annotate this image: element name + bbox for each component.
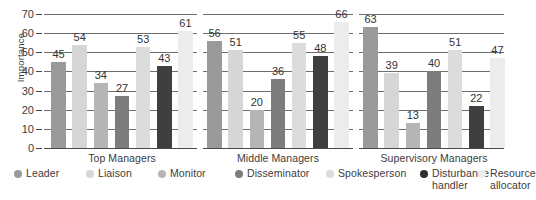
legend-label: Spokesperson: [338, 168, 406, 180]
legend-item[interactable]: Resource allocator: [478, 168, 536, 191]
group-separator: [353, 13, 359, 149]
bar-value-label: 48: [307, 43, 334, 54]
bar-value-label: 63: [357, 14, 384, 25]
bar: [228, 50, 243, 148]
legend-color-dot-icon: [478, 170, 486, 178]
y-tick-label: 40: [0, 66, 34, 76]
bar: [136, 47, 151, 148]
y-tick-label: 50: [0, 47, 34, 57]
y-tick-mark: [36, 129, 42, 130]
bar: [469, 106, 484, 148]
y-tick-mark: [36, 148, 42, 149]
legend-color-dot-icon: [326, 170, 334, 178]
legend-color-dot-icon: [86, 170, 94, 178]
y-tick-mark: [36, 110, 42, 111]
bar: [115, 96, 130, 148]
legend-label: Monitor: [170, 168, 206, 180]
bar: [178, 31, 193, 148]
plot-area: 4554342753436156512036554866633913405122…: [44, 14, 504, 148]
bar: [94, 83, 109, 148]
bar-value-label: 55: [286, 30, 313, 41]
bar-value-label: 61: [172, 18, 199, 29]
bar: [490, 58, 505, 148]
bar-value-label: 51: [442, 37, 469, 48]
legend-color-dot-icon: [420, 170, 428, 178]
legend-color-dot-icon: [235, 170, 243, 178]
y-tick-label: 10: [0, 124, 34, 134]
bar-value-label: 43: [151, 53, 178, 64]
bar-group: 45543427534361: [48, 14, 196, 148]
bar: [384, 73, 399, 148]
bar-value-label: 47: [484, 45, 511, 56]
axis-baseline: [44, 148, 504, 149]
y-tick-mark: [36, 14, 42, 15]
legend-item[interactable]: Leader: [14, 168, 59, 180]
legend-label: Liaison: [98, 168, 132, 180]
bar-value-label: 40: [421, 58, 448, 69]
y-tick-label: 70: [0, 9, 34, 19]
bar-value-label: 13: [400, 110, 427, 121]
bar-value-label: 27: [109, 83, 136, 94]
y-tick-mark: [36, 33, 42, 34]
legend-item[interactable]: Spokesperson: [326, 168, 406, 180]
bar-value-label: 22: [463, 93, 490, 104]
legend-item[interactable]: Monitor: [158, 168, 206, 180]
y-tick-mark: [36, 91, 42, 92]
bar: [334, 22, 349, 148]
bar-value-label: 54: [66, 32, 93, 43]
chart-legend: LeaderLiaisonMonitorDisseminatorSpokespe…: [8, 168, 506, 200]
bar-value-label: 51: [222, 37, 249, 48]
bar-value-label: 45: [45, 49, 72, 60]
y-tick-label: 20: [0, 105, 34, 115]
bar-value-label: 39: [378, 60, 405, 71]
bar-group: 63391340512247: [360, 14, 508, 148]
bar-value-label: 34: [88, 70, 115, 81]
legend-label: Resource allocator: [490, 168, 536, 191]
bar-group: 56512036554866: [204, 14, 352, 148]
bar-value-label: 20: [244, 97, 271, 108]
bar: [207, 41, 222, 148]
bar: [271, 79, 286, 148]
y-tick-label: 30: [0, 86, 34, 96]
legend-color-dot-icon: [158, 170, 166, 178]
bar: [363, 27, 378, 148]
bar: [427, 71, 442, 148]
bar: [157, 66, 172, 148]
bar: [313, 56, 328, 148]
y-tick-mark: [36, 71, 42, 72]
bar-value-label: 53: [130, 34, 157, 45]
legend-color-dot-icon: [14, 170, 22, 178]
bar: [250, 110, 265, 148]
y-tick-mark: [36, 52, 42, 53]
bar: [448, 50, 463, 148]
legend-item[interactable]: Liaison: [86, 168, 132, 180]
legend-label: Disseminator: [247, 168, 309, 180]
bar: [72, 45, 87, 148]
y-tick-label: 60: [0, 28, 34, 38]
group-label: Supervisory Managers: [340, 152, 528, 164]
bar: [292, 43, 307, 148]
bar-value-label: 66: [328, 9, 355, 20]
legend-label: Leader: [26, 168, 59, 180]
legend-item[interactable]: Disseminator: [235, 168, 309, 180]
bar: [51, 62, 66, 148]
bar-value-label: 36: [265, 66, 292, 77]
bar: [406, 123, 421, 148]
